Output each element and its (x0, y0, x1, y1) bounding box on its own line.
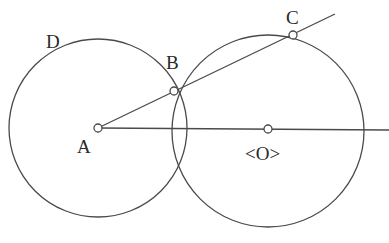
ray-a-through-b-c (98, 14, 335, 128)
label-c: C (286, 7, 299, 28)
label-b: B (166, 52, 179, 73)
label-o: <O> (245, 143, 280, 164)
point-c (289, 31, 297, 39)
point-a (94, 124, 102, 132)
ray-a-through-o (98, 128, 389, 130)
point-b (170, 87, 178, 95)
point-o (264, 125, 272, 133)
label-a: A (77, 136, 91, 157)
geometry-diagram: A B C D <O> (0, 0, 389, 243)
label-d: D (46, 31, 60, 52)
